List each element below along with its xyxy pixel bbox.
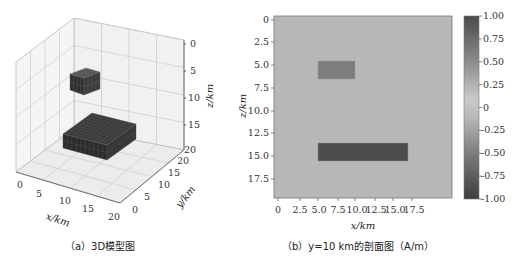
panel-a-3d-plot: 0 5 10 15 20 x/km 0 5 10 15 20 y/km 0 5 … xyxy=(16,18,215,252)
colorbar-gradient xyxy=(464,16,479,199)
colorbar: 1.00 0.75 0.50 0.25 0 -0.25 -0.50 -0.75 … xyxy=(464,10,505,204)
svg-text:15.0: 15.0 xyxy=(384,204,405,215)
heatmap-area xyxy=(274,16,452,198)
svg-text:0: 0 xyxy=(275,204,281,215)
svg-text:0.50: 0.50 xyxy=(483,56,504,67)
y-axis-label-3d: y/km xyxy=(173,184,197,211)
svg-text:0: 0 xyxy=(263,14,269,25)
z-axis-label-3d: z/km xyxy=(204,84,215,109)
svg-text:0: 0 xyxy=(483,102,489,113)
svg-text:20: 20 xyxy=(177,155,189,166)
svg-text:7.5: 7.5 xyxy=(330,204,345,215)
svg-text:5.0: 5.0 xyxy=(254,59,269,70)
svg-text:7.5: 7.5 xyxy=(254,82,269,93)
svg-text:12.5: 12.5 xyxy=(365,204,386,215)
svg-text:0: 0 xyxy=(17,179,23,190)
svg-text:12.5: 12.5 xyxy=(248,127,269,138)
anomaly-large-rect xyxy=(318,143,408,161)
x-axis-label-heatmap: x/km xyxy=(351,220,376,231)
svg-text:15: 15 xyxy=(82,203,94,214)
svg-text:0: 0 xyxy=(132,204,138,215)
svg-text:0.75: 0.75 xyxy=(483,33,504,44)
panel-b-heatmap: 0 2.5 5.0 7.5 10.0 12.5 15.0 17.5 z/km 0 xyxy=(237,10,505,252)
svg-text:10.0: 10.0 xyxy=(346,204,367,215)
svg-text:10: 10 xyxy=(158,179,170,190)
svg-text:0.25: 0.25 xyxy=(483,79,504,90)
svg-text:17.5: 17.5 xyxy=(248,173,269,184)
svg-text:10.0: 10.0 xyxy=(248,105,269,116)
svg-text:10: 10 xyxy=(188,92,200,103)
x-ticks-heatmap: 0 2.5 5.0 7.5 10.0 12.5 15.0 17.5 xyxy=(275,198,425,215)
svg-text:0: 0 xyxy=(190,38,196,49)
svg-text:15: 15 xyxy=(188,119,200,130)
svg-text:15: 15 xyxy=(168,167,180,178)
svg-text:-0.50: -0.50 xyxy=(481,147,505,158)
svg-text:10: 10 xyxy=(59,195,71,206)
svg-text:17.5: 17.5 xyxy=(403,204,424,215)
svg-text:-0.75: -0.75 xyxy=(481,170,505,181)
svg-text:5: 5 xyxy=(36,188,42,199)
figure: 0 5 10 15 20 x/km 0 5 10 15 20 y/km 0 5 … xyxy=(0,0,516,258)
caption-b: （b）y=10 km的剖面图（A/m） xyxy=(282,240,434,252)
svg-text:2.5: 2.5 xyxy=(292,204,307,215)
anomaly-small-rect xyxy=(318,61,355,79)
y-ticks-heatmap: 0 2.5 5.0 7.5 10.0 12.5 15.0 17.5 xyxy=(248,14,274,184)
svg-text:5.0: 5.0 xyxy=(311,204,326,215)
svg-text:1.00: 1.00 xyxy=(483,10,504,21)
x-axis-label-3d: x/km xyxy=(45,210,72,228)
svg-text:-1.00: -1.00 xyxy=(481,193,505,204)
svg-text:20: 20 xyxy=(184,144,196,155)
caption-a: （a）3D模型图 xyxy=(65,240,135,252)
svg-text:2.5: 2.5 xyxy=(254,36,269,47)
svg-text:15.0: 15.0 xyxy=(248,150,269,161)
svg-text:-0.25: -0.25 xyxy=(481,124,505,135)
y-axis-label-heatmap: z/km xyxy=(237,94,248,119)
z-ticks-3d: 0 5 10 15 20 xyxy=(184,38,200,155)
svg-text:5: 5 xyxy=(190,65,196,76)
svg-text:20: 20 xyxy=(108,211,120,222)
svg-text:5: 5 xyxy=(144,191,150,202)
